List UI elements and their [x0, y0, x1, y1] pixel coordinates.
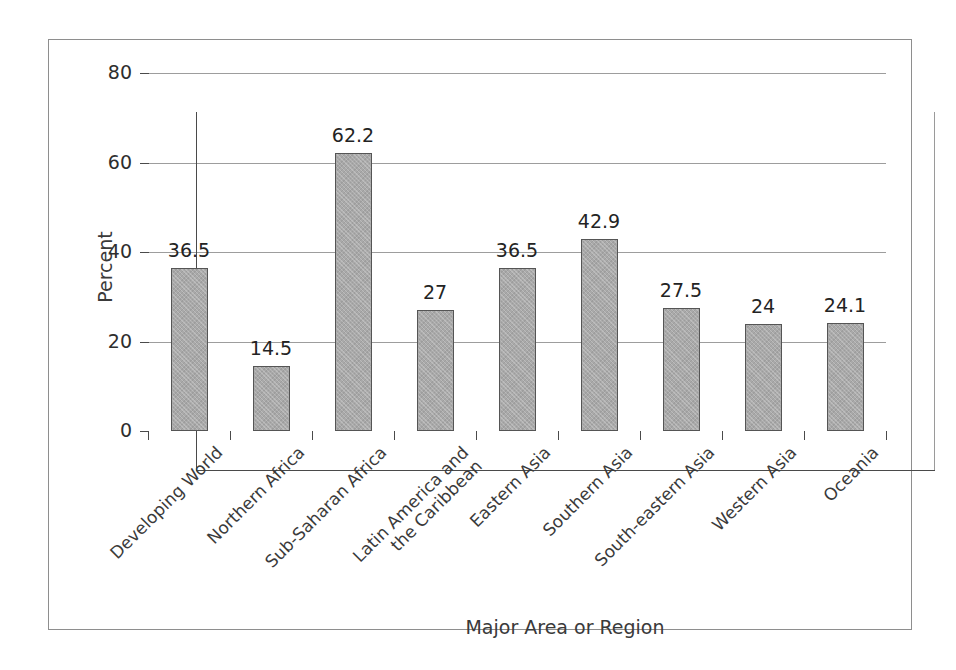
y-axis-title: Percent — [94, 207, 116, 327]
bar-value-label: 42.9 — [554, 212, 644, 231]
y-tick-label-text: 0 — [120, 421, 132, 440]
x-tick-mark-7 — [722, 431, 723, 440]
bar-value-label: 36.5 — [472, 241, 562, 260]
x-tick-mark-6 — [640, 431, 641, 440]
plot-right-border — [934, 112, 935, 470]
bar[interactable] — [253, 366, 290, 431]
bar-value-label: 24.1 — [800, 296, 890, 315]
y-tick-label-text: 40 — [108, 242, 132, 261]
bar[interactable] — [581, 239, 618, 431]
bar[interactable] — [335, 153, 372, 431]
y-tick-label-40: 40 — [86, 242, 132, 262]
y-tick-label-text: 20 — [108, 332, 132, 351]
bar-value-label: 14.5 — [226, 339, 316, 358]
x-tick-mark-9 — [886, 431, 887, 440]
bar[interactable] — [417, 310, 454, 431]
figure-frame: Percent 020406080 36.514.562.22736.542.9… — [48, 39, 912, 630]
y-tick-label-20: 20 — [86, 332, 132, 352]
bar-value-label: 27 — [390, 283, 480, 302]
bar-value-label: 24 — [718, 297, 808, 316]
x-axis-category-label: Developing World — [107, 443, 227, 563]
bar[interactable] — [745, 324, 782, 431]
y-tick-label-0: 0 — [86, 421, 132, 441]
x-tick-mark-1 — [230, 431, 231, 440]
x-axis-category-label: Eastern Asia — [466, 443, 554, 531]
bar-value-label: 62.2 — [308, 126, 398, 145]
y-tick-label-80: 80 — [86, 63, 132, 83]
bar[interactable] — [663, 308, 700, 431]
x-tick-mark-2 — [312, 431, 313, 440]
x-axis-line — [196, 470, 935, 471]
x-tick-mark-0 — [148, 431, 149, 440]
x-axis-title: Major Area or Region — [196, 616, 934, 638]
bar-value-label: 27.5 — [636, 281, 726, 300]
x-axis-category-label: Western Asia — [709, 443, 801, 535]
y-tick-label-text: 80 — [108, 63, 132, 82]
y-tick-mark-60 — [140, 163, 149, 164]
bar[interactable] — [499, 268, 536, 431]
x-tick-mark-8 — [804, 431, 805, 440]
x-tick-mark-4 — [476, 431, 477, 440]
bar-value-label: 36.5 — [144, 241, 234, 260]
y-tick-mark-20 — [140, 342, 149, 343]
bar[interactable] — [171, 268, 208, 431]
y-tick-label-text: 60 — [108, 153, 132, 172]
x-tick-mark-5 — [558, 431, 559, 440]
bar[interactable] — [827, 323, 864, 431]
gridline-80 — [148, 73, 886, 74]
y-tick-mark-80 — [140, 73, 149, 74]
y-tick-label-60: 60 — [86, 153, 132, 173]
x-axis-category-label: Oceania — [820, 443, 883, 506]
x-tick-mark-3 — [394, 431, 395, 440]
gridline-60 — [148, 163, 886, 164]
